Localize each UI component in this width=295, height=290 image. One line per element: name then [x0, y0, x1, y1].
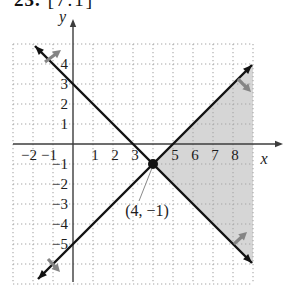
y-tick-label: −5 [52, 236, 68, 252]
x-tick-label: 5 [171, 147, 179, 163]
y-axis-label: y [57, 8, 67, 26]
figure: 23.[7.1] xy−2−112356784321−1−2−3−4−5(4, … [0, 0, 295, 290]
y-tick-label: −1 [52, 156, 68, 172]
x-tick-label: 2 [111, 147, 119, 163]
y-tick-label: 4 [61, 56, 69, 72]
y-tick-label: 1 [61, 116, 69, 132]
graph-svg: xy−2−112356784321−1−2−3−4−5(4, −1) [0, 0, 295, 290]
y-tick-label: −4 [52, 216, 68, 232]
point-label: (4, −1) [125, 202, 169, 220]
x-tick-label: 7 [211, 147, 219, 163]
x-tick-label: 1 [91, 147, 99, 163]
y-tick-label: −3 [52, 196, 68, 212]
y-tick-label: 2 [61, 96, 69, 112]
y-tick-label: −2 [52, 176, 68, 192]
x-axis-label: x [259, 150, 267, 167]
x-tick-label: 8 [231, 147, 239, 163]
y-axis-arrow-icon [70, 19, 76, 27]
x-axis-arrow-icon [275, 141, 283, 147]
x-tick-label: 6 [191, 147, 199, 163]
intersection-point [148, 159, 158, 169]
x-tick-label: −2 [21, 147, 37, 163]
